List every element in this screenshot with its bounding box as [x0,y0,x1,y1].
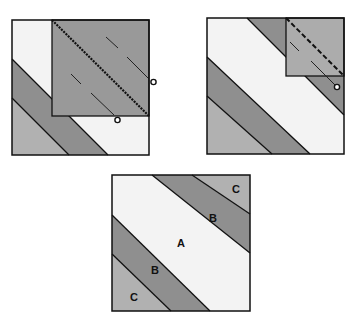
label-c-bottom: C [130,291,138,303]
diagram-canvas: C B A B C [0,0,352,314]
panel1-circle-marker [151,79,156,84]
panel1-circle-marker [115,117,120,122]
label-b-bottom: B [151,264,159,276]
label-a-center: A [177,237,185,249]
panel2-circle-marker [334,84,339,89]
label-b-top: B [209,212,217,224]
label-c-top: C [232,183,240,195]
panel-step-3: C B A B C [112,175,250,311]
panel-step-2 [207,18,344,154]
panel-step-1 [12,20,156,155]
